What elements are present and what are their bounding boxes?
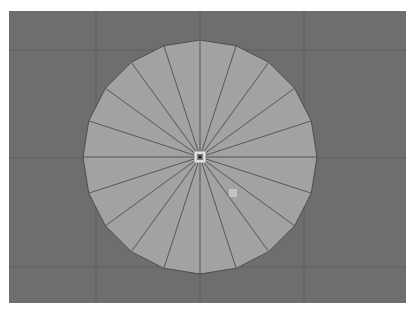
manipulator-handle-icon[interactable] (229, 189, 237, 197)
pivot-icon[interactable] (195, 152, 205, 162)
viewport-scene[interactable] (9, 11, 406, 303)
3d-viewport[interactable] (9, 11, 406, 303)
